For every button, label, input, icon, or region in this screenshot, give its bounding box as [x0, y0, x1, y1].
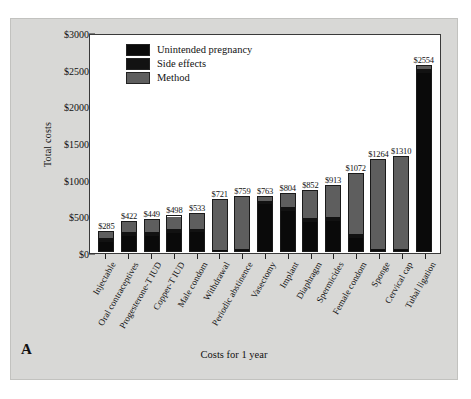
bar-segment-unintended-pregnancy: [190, 232, 204, 251]
bar-slot: $804: [276, 36, 299, 252]
x-axis-title: Costs for 1 year: [11, 349, 457, 360]
bar-slot: $1310: [390, 36, 413, 252]
x-tick-mark: [128, 254, 129, 259]
bar-segment-method: [349, 174, 363, 233]
bar[interactable]: $1310: [393, 156, 409, 252]
bar-value-label: $1264: [368, 149, 388, 159]
panel-letter: A: [21, 341, 32, 358]
bar-value-label: $1072: [346, 163, 366, 173]
bar-segment-method: [371, 160, 385, 248]
bar[interactable]: $721: [212, 199, 228, 252]
bar-slot: $763: [254, 36, 277, 252]
bar-segment-method: [281, 194, 295, 207]
bar-value-label: $763: [257, 186, 273, 196]
bar-value-label: $759: [234, 186, 250, 196]
bar-value-label: $804: [280, 183, 296, 193]
bar[interactable]: $759: [234, 196, 250, 252]
bar[interactable]: $913: [325, 185, 341, 252]
bar-segment-unintended-pregnancy: [394, 250, 408, 251]
x-tick-mark: [174, 254, 175, 259]
bar[interactable]: $498: [166, 215, 182, 252]
plot-area: Unintended pregnancySide effectsMethod $…: [89, 34, 441, 254]
x-tick-mark: [151, 254, 152, 259]
bar-segment-method: [190, 214, 204, 229]
x-tick-mark: [197, 254, 198, 259]
x-tick-mark: [311, 254, 312, 259]
x-tick-mark: [379, 254, 380, 259]
bar-slot: $1264: [367, 36, 390, 252]
legend: Unintended pregnancySide effectsMethod: [126, 43, 252, 85]
x-axis-category-labels: InjectableOral contraceptivesProgesteron…: [89, 260, 441, 360]
bar-value-label: $721: [212, 189, 228, 199]
bar-segment-unintended-pregnancy: [167, 233, 181, 251]
bar[interactable]: $2554: [416, 65, 432, 252]
legend-swatch-icon: [126, 72, 150, 84]
bar-segment-unintended-pregnancy: [258, 204, 272, 251]
bar-slot: $2554: [412, 36, 435, 252]
legend-item: Method: [126, 71, 252, 84]
bar-value-label: $498: [166, 205, 182, 215]
y-tick-label: $2500: [35, 65, 89, 76]
bar[interactable]: $449: [144, 219, 160, 252]
bar-value-label: $913: [325, 175, 341, 185]
bar-segment-method: [303, 191, 317, 219]
x-tick-mark: [219, 254, 220, 259]
bar-segment-unintended-pregnancy: [145, 236, 159, 251]
bar-value-label: $449: [144, 209, 160, 219]
y-axis: $0$500$1000$1500$2000$2500$3000: [33, 34, 89, 254]
bar-segment-unintended-pregnancy: [417, 73, 431, 251]
legend-label: Method: [157, 72, 190, 83]
bar[interactable]: $1072: [348, 173, 364, 252]
bar[interactable]: $804: [280, 193, 296, 252]
x-tick-mark: [402, 254, 403, 259]
x-tick-mark: [356, 254, 357, 259]
y-tick-label: $3000: [35, 29, 89, 40]
bar-segment-method: [145, 220, 159, 232]
bar-value-label: $422: [121, 211, 137, 221]
bar-slot: $913: [322, 36, 345, 252]
figure-container: Total costs $0$500$1000$1500$2000$2500$3…: [0, 0, 471, 399]
bar-segment-unintended-pregnancy: [99, 242, 113, 251]
bar-segment-unintended-pregnancy: [303, 222, 317, 251]
bar-value-label: $1310: [391, 146, 411, 156]
bar-segment-unintended-pregnancy: [235, 250, 249, 251]
bar[interactable]: $763: [257, 196, 273, 252]
x-tick-mark: [242, 254, 243, 259]
bar[interactable]: $285: [98, 231, 114, 252]
legend-item: Side effects: [126, 57, 252, 70]
bar-segment-unintended-pregnancy: [371, 250, 385, 251]
x-tick-mark: [425, 254, 426, 259]
chart-panel: Total costs $0$500$1000$1500$2000$2500$3…: [10, 18, 458, 380]
legend-item: Unintended pregnancy: [126, 43, 252, 56]
y-tick-label: $1000: [35, 175, 89, 186]
bar-segment-unintended-pregnancy: [326, 221, 340, 251]
bar-value-label: $533: [189, 203, 205, 213]
bar-segment-method: [326, 186, 340, 217]
bar-segment-method: [394, 157, 408, 249]
x-tick-mark: [333, 254, 334, 259]
bar-value-label: $285: [98, 221, 114, 231]
y-tick-label: $1500: [35, 139, 89, 150]
legend-swatch-icon: [126, 58, 150, 70]
x-tick-mark: [265, 254, 266, 259]
bar-segment-method: [122, 222, 136, 232]
bar-slot: $852: [299, 36, 322, 252]
bar[interactable]: $533: [189, 213, 205, 252]
x-tick-label: Implant: [277, 260, 300, 290]
y-tick-label: $0: [35, 249, 89, 260]
x-tick-mark: [288, 254, 289, 259]
x-tick-mark: [105, 254, 106, 259]
bar-segment-method: [213, 200, 227, 249]
bar[interactable]: $422: [121, 221, 137, 252]
bar-segment-unintended-pregnancy: [213, 250, 227, 251]
bar-segment-unintended-pregnancy: [281, 211, 295, 251]
bar[interactable]: $1264: [370, 159, 386, 252]
y-tick-label: $2000: [35, 102, 89, 113]
bar-segment-method: [167, 217, 181, 229]
bar-segment-unintended-pregnancy: [349, 238, 363, 251]
bar[interactable]: $852: [302, 190, 318, 252]
legend-label: Unintended pregnancy: [157, 44, 252, 55]
bar-segment-unintended-pregnancy: [122, 236, 136, 251]
legend-swatch-icon: [126, 44, 150, 56]
legend-label: Side effects: [157, 58, 206, 69]
